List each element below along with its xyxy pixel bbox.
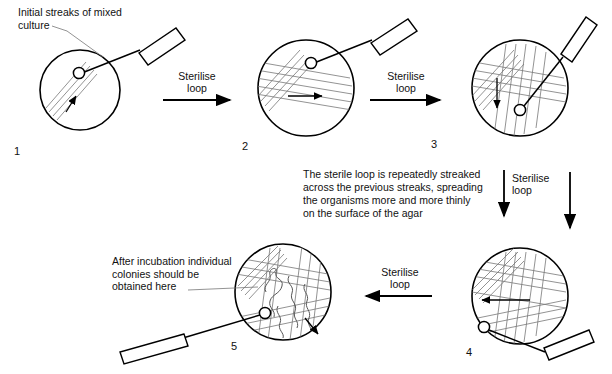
plate-4	[468, 248, 594, 360]
plate-4-handle	[544, 330, 594, 360]
arrow-2-3-label: Sterilise loop	[372, 70, 440, 95]
plate-1-handle	[139, 28, 185, 65]
initial-streaks-label: Initial streaks of mixed culture	[18, 6, 122, 31]
plate-5-handle	[120, 334, 188, 364]
plate-4-number: 4	[466, 346, 472, 358]
diagram-canvas: Initial streaks of mixed culture The ste…	[0, 0, 612, 374]
plate-4-loop	[478, 321, 489, 332]
arrow-4-5-label: Sterilise loop	[366, 266, 434, 291]
plate-5-loop	[259, 307, 270, 318]
plate-5-number: 5	[231, 340, 237, 352]
plate-1-number: 1	[14, 145, 20, 157]
plate-2-loop	[305, 57, 316, 68]
middle-note-text: The sterile loop is repeatedly streaked …	[303, 168, 483, 220]
plate-5-wire	[183, 315, 260, 338]
colonies-label: After incubation individual colonies sho…	[112, 255, 232, 293]
plate-3-number: 3	[431, 138, 437, 150]
plate-3	[472, 17, 597, 136]
plate-2-dish	[258, 40, 354, 136]
arrow-1-2-label: Sterilise loop	[163, 70, 231, 95]
plate-2-handle	[371, 19, 417, 55]
plate-3-loop	[514, 104, 525, 115]
arrow-3-4-label: Sterilise loop	[512, 172, 582, 197]
plate-5-dish	[235, 244, 331, 340]
plate-3-handle	[561, 17, 597, 62]
plate-1-loop	[73, 67, 84, 78]
plate-2-number: 2	[242, 140, 248, 152]
